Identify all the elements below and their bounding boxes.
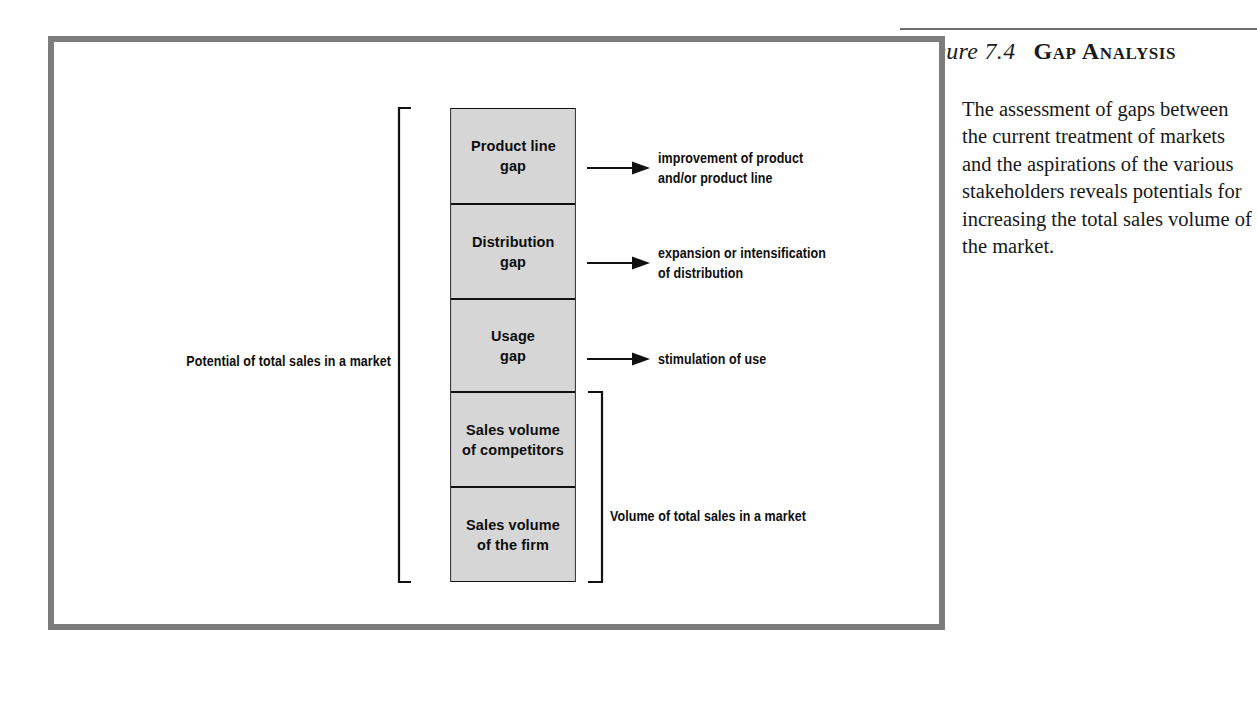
gap-box-line-2: of the firm: [477, 535, 549, 555]
gap-box-line-1: Distribution: [472, 232, 554, 252]
gap-box-line-2: gap: [500, 346, 526, 366]
arrow-head-2: [632, 257, 650, 270]
gap-box-distribution[interactable]: Distribution gap: [450, 204, 576, 299]
figure-panel: Product line gap Distribution gap Usage …: [48, 36, 945, 630]
figure-caption: Figure 7.4Gap Analysis: [912, 38, 1257, 68]
gap-box-line-2: gap: [500, 156, 526, 176]
gap-box-firm-volume[interactable]: Sales volume of the firm: [450, 487, 576, 582]
callout-usage: stimulation of use: [658, 349, 766, 369]
gap-box-line-1: Usage: [491, 326, 535, 346]
gap-box-line-1: Product line: [471, 136, 556, 156]
gap-box-line-1: Sales volume: [466, 515, 560, 535]
gap-box-competitors-volume[interactable]: Sales volume of competitors: [450, 392, 576, 487]
gap-box-product-line[interactable]: Product line gap: [450, 108, 576, 204]
arrow-head-1: [632, 162, 650, 175]
left-bracket: [399, 108, 411, 582]
right-bracket-label: Volume of total sales in a market: [610, 508, 806, 524]
arrow-head-3: [632, 353, 650, 366]
gap-box-line-2: of competitors: [462, 440, 564, 460]
header-divider: [900, 28, 1257, 30]
gap-analysis-diagram: Product line gap Distribution gap Usage …: [54, 42, 939, 624]
left-bracket-label: Potential of total sales in a market: [186, 353, 391, 369]
gap-box-line-1: Sales volume: [466, 420, 560, 440]
right-bracket: [588, 392, 602, 582]
gap-box-line-2: gap: [500, 252, 526, 272]
gap-box-usage[interactable]: Usage gap: [450, 299, 576, 392]
figure-title: Gap Analysis: [1033, 38, 1176, 64]
callout-product-line: improvement of product and/or product li…: [658, 148, 803, 188]
callout-distribution: expansion or intensification of distribu…: [658, 243, 826, 283]
figure-description: The assessment of gaps between the curre…: [962, 96, 1254, 260]
